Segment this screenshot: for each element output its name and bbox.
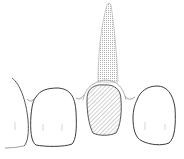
teeth-illustration [0,0,184,159]
lateral-left-outline [12,78,28,146]
lateral-left-base [5,146,24,148]
crown-shape [87,85,121,135]
left-tooth-outline [31,88,77,146]
right-tooth-outline [133,86,175,145]
dental-diagram [0,0,184,159]
post-shape [98,3,118,82]
